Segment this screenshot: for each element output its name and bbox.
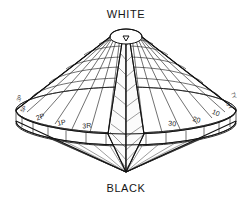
equator-cell-label-20: 20 (192, 115, 201, 124)
pole-label-white: WHITE (107, 8, 145, 20)
equator-cell-label-30: 30 (168, 120, 177, 128)
rim-label-right-7y: 7Y (230, 91, 238, 100)
pole-label-black: BLACK (106, 182, 145, 194)
rim-label-right-5y: 5Y (225, 101, 234, 110)
munsell-color-solid: WHITE BLACK 3R 1P 2P 30 20 10 5P 3P 5Y 7… (0, 0, 252, 201)
rim-label-left-3p: 3P (15, 94, 23, 103)
equator-cell-label-1p: 1P (57, 118, 67, 127)
equator-cell-label-3r: 3R (82, 122, 92, 130)
equator-cell-label-10: 10 (211, 108, 221, 117)
